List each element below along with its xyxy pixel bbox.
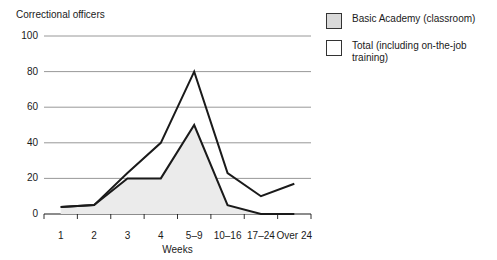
- xtick-label-7: Over 24: [264, 230, 324, 241]
- ytick-label-40: 40: [8, 138, 38, 148]
- legend-label-basic-academy: Basic Academy (classroom): [352, 13, 475, 25]
- legend-swatch-basic-academy: [326, 13, 342, 29]
- ytick-label-60: 60: [8, 102, 38, 112]
- legend-item-total: Total (including on-the-job training): [326, 40, 497, 64]
- plot-area: 02040608010012345–910–1617–24Over 24Week…: [0, 0, 330, 260]
- ytick-label-0: 0: [8, 209, 38, 219]
- chart-figure: Correctional officers 02040608010012345–…: [0, 0, 497, 260]
- ytick-label-100: 100: [8, 31, 38, 41]
- ytick-label-80: 80: [8, 67, 38, 77]
- chart-legend: Basic Academy (classroom) Total (includi…: [326, 13, 497, 75]
- series-area-0: [61, 125, 295, 214]
- ytick-label-20: 20: [8, 173, 38, 183]
- chart-canvas: [0, 0, 330, 260]
- legend-label-total: Total (including on-the-job training): [352, 40, 492, 64]
- legend-item-basic-academy: Basic Academy (classroom): [326, 13, 497, 29]
- x-axis-label: Weeks: [14, 244, 341, 255]
- legend-swatch-total: [326, 40, 342, 56]
